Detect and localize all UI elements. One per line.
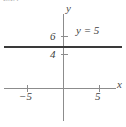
y-tick-label-4: 4	[50, 48, 56, 60]
line-y-equals-5	[4, 46, 122, 48]
equation-annotation: y = 5	[76, 24, 99, 36]
y-tick-label-6: 6	[50, 30, 56, 42]
x-axis-label: x	[117, 78, 122, 90]
y-tick-6	[61, 36, 68, 37]
graph-figure: EX.4 y x −5 5 6 4 y = 5	[0, 0, 126, 127]
x-tick-label-neg5: −5	[19, 90, 32, 102]
y-axis-label: y	[66, 2, 71, 14]
caption-fragment: EX.4	[3, 0, 19, 2]
y-axis-line	[63, 14, 64, 121]
y-tick-4	[61, 54, 68, 55]
x-tick-label-pos5: 5	[95, 90, 101, 102]
